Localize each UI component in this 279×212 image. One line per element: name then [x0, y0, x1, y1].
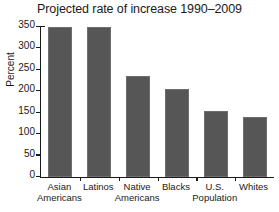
bar [243, 117, 267, 177]
y-tick-label: 150 [18, 106, 35, 116]
y-tick-label: 300 [18, 41, 35, 51]
x-axis-label-line2: Population [189, 192, 240, 203]
x-axis-labels: AsianAmericansLatinosNativeAmericansBlac… [40, 181, 273, 211]
plot-area: 050100150200250300350 [40, 27, 274, 178]
y-tick-label: 350 [18, 20, 35, 30]
y-tick-label: 50 [24, 149, 35, 159]
x-axis-label-line2: Americans [112, 192, 163, 203]
x-axis-label: Whites [228, 181, 279, 192]
chart-title: Projected rate of increase 1990–2009 [0, 2, 279, 16]
y-tick-label: 0 [29, 170, 35, 180]
y-axis-label: Percent [5, 38, 16, 102]
x-axis-label-line1: Whites [228, 181, 279, 192]
x-axis-label-line2: Americans [34, 192, 85, 203]
bar [126, 76, 150, 177]
bar [48, 27, 72, 177]
y-tick-label: 250 [18, 63, 35, 73]
bar [204, 111, 228, 177]
y-tick-label: 200 [18, 84, 35, 94]
y-tick-label: 100 [18, 127, 35, 137]
bar-chart: Projected rate of increase 1990–2009 Per… [0, 0, 279, 212]
bar [87, 27, 111, 177]
bar-series [41, 27, 274, 177]
bar [165, 89, 189, 177]
